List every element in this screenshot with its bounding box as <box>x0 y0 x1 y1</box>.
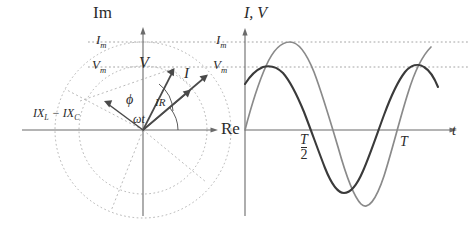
phasor-construction-parallelogram-side <box>172 69 192 87</box>
reactance-sub-C: C <box>74 113 79 122</box>
phasor-tick-label-Vm: Vm <box>92 58 106 74</box>
waveform-axis-time-label: t <box>452 124 456 138</box>
waveform-plot <box>242 28 457 216</box>
waveform-tick-period: T <box>400 135 408 149</box>
phasor-angle-arc-omega-t <box>170 108 178 130</box>
phasor-axis-real-label: Re <box>221 120 240 137</box>
waveform-tick-label-Im: Im <box>216 33 227 49</box>
phasor-vector-I-label: I <box>184 66 189 81</box>
phasor-tick-Vm-sub: m <box>100 65 106 75</box>
half-period-denominator: 2 <box>300 148 308 162</box>
phasor-angle-phi-label: ϕ <box>126 93 133 107</box>
figure-root: Im Re Im Vm V I IR IXL − IXC ϕ ωt I, V t… <box>0 0 475 235</box>
phasor-construction-radius-lower-right <box>143 130 206 182</box>
phasor-vector-IR <box>143 90 191 131</box>
waveform-axis-vertical-label: I, V <box>244 5 267 21</box>
phasor-vector-reactance-label: IXL − IXC <box>33 107 79 122</box>
phasor-tick-Im-sub: m <box>100 40 106 50</box>
phasor-vector-IR-label: IR <box>155 97 165 108</box>
phasor-axis-imaginary-arrowhead <box>140 27 145 35</box>
phasor-vector-V-label: V <box>139 55 149 71</box>
phasor-construction-radius-lower-left <box>111 130 143 211</box>
phasor-axis-real-arrowhead <box>211 127 219 132</box>
waveform-curve-voltage <box>245 65 438 193</box>
phasor-tick-Vm-main: V <box>92 57 100 72</box>
half-period-numerator: T <box>300 133 308 147</box>
waveform-tick-label-Vm: Vm <box>213 58 227 74</box>
waveform-tick-half-period: T 2 <box>300 133 308 163</box>
waveform-tick-Vm-sub: m <box>221 65 227 75</box>
phasor-diagram <box>22 27 470 218</box>
phasor-angle-omega-t-label: ωt <box>133 113 145 125</box>
reactance-minus: − <box>52 106 60 120</box>
waveform-tick-Im-sub: m <box>220 40 226 50</box>
waveform-axis-vertical-arrowhead <box>242 28 247 36</box>
phasor-tick-label-Im: Im <box>96 33 107 49</box>
phasor-axis-imaginary-label: Im <box>93 4 112 21</box>
waveform-tick-Vm-main: V <box>213 57 221 72</box>
